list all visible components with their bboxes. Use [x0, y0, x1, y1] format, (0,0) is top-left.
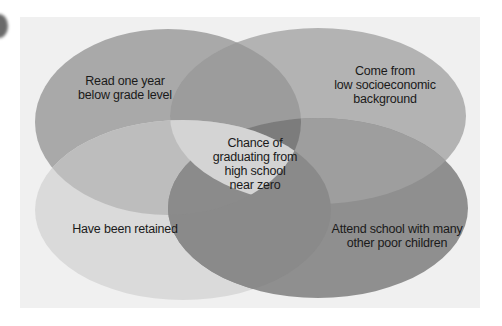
label-read-below-grade: Read one year below grade level	[60, 74, 190, 102]
label-center: Chance of graduating from high school ne…	[205, 136, 305, 192]
label-poor-school: Attend school with many other poor child…	[322, 222, 472, 250]
label-retained: Have been retained	[55, 222, 195, 236]
label-low-ses: Come from low socioeconomic background	[320, 64, 450, 106]
